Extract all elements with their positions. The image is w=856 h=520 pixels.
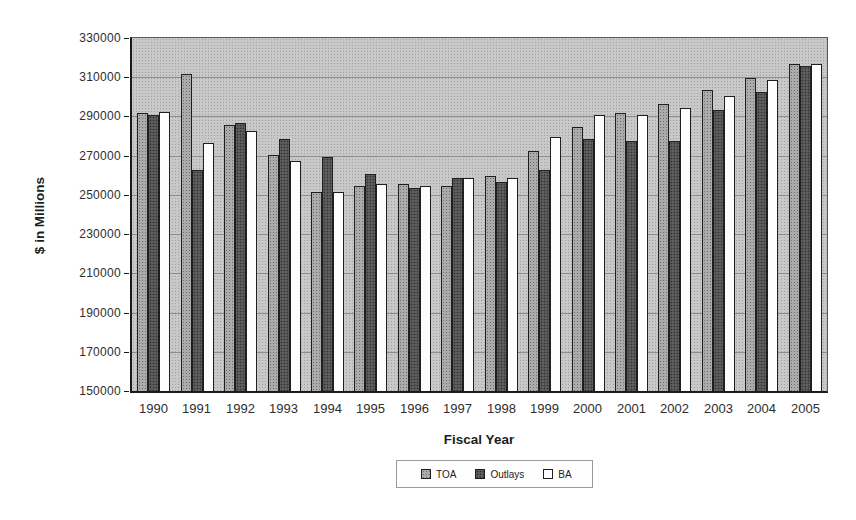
bar-group-1992 <box>219 123 262 391</box>
x-tick-label: 1992 <box>219 401 262 416</box>
bar-group-1993 <box>262 139 305 391</box>
x-tick-label: 2005 <box>784 401 827 416</box>
bar-outlays-1995 <box>365 174 376 391</box>
x-tick-label: 1994 <box>306 401 349 416</box>
y-tick-mark <box>124 391 129 392</box>
bar-ba-2005 <box>811 64 822 391</box>
bar-outlays-1993 <box>279 139 290 391</box>
x-tick-label: 1997 <box>436 401 479 416</box>
bar-group-1990 <box>132 112 175 391</box>
bar-ba-1994 <box>333 192 344 391</box>
bar-outlays-1994 <box>322 157 333 391</box>
bar-toa-1996 <box>398 184 409 391</box>
bar-toa-1994 <box>311 192 322 391</box>
legend-swatch-ba <box>543 469 553 479</box>
y-tick-mark <box>124 234 129 235</box>
bar-outlays-1991 <box>192 170 203 391</box>
bar-outlays-1990 <box>148 115 159 391</box>
bar-ba-1996 <box>420 186 431 391</box>
bar-ba-2002 <box>680 108 691 391</box>
bar-outlays-2001 <box>626 141 637 391</box>
y-tick-mark <box>124 352 129 353</box>
x-tick-label: 2003 <box>697 401 740 416</box>
y-tick-mark <box>124 156 129 157</box>
bar-outlays-2003 <box>713 110 724 391</box>
x-tick-label: 2001 <box>610 401 653 416</box>
bar-ba-2001 <box>637 115 648 391</box>
y-tick-mark <box>124 313 129 314</box>
bar-group-1995 <box>349 174 392 391</box>
y-tick-mark <box>124 77 129 78</box>
bar-outlays-1997 <box>452 178 463 391</box>
bar-outlays-2004 <box>756 92 767 391</box>
bar-group-1999 <box>523 137 566 391</box>
y-tick-label: 270000 <box>0 149 121 163</box>
y-tick-label: 330000 <box>0 31 121 45</box>
bar-group-2002 <box>653 104 696 391</box>
bar-group-1991 <box>175 74 218 391</box>
bar-toa-1998 <box>485 176 496 391</box>
bar-ba-1990 <box>159 112 170 391</box>
bar-toa-1995 <box>354 186 365 391</box>
x-tick-label: 1993 <box>262 401 305 416</box>
plot-area <box>130 37 828 393</box>
bar-ba-1992 <box>246 131 257 391</box>
bar-outlays-1992 <box>235 123 246 391</box>
bar-outlays-2005 <box>800 66 811 391</box>
bar-outlays-1996 <box>409 188 420 391</box>
bar-ba-1991 <box>203 143 214 391</box>
bar-group-1994 <box>306 157 349 391</box>
legend-label-toa: TOA <box>436 469 456 480</box>
x-tick-label: 1996 <box>393 401 436 416</box>
legend-label-outlays: Outlays <box>490 469 524 480</box>
bar-group-1997 <box>436 178 479 391</box>
bar-toa-1993 <box>268 155 279 391</box>
bar-outlays-1999 <box>539 170 550 391</box>
y-tick-mark <box>124 195 129 196</box>
bar-group-1998 <box>480 176 523 391</box>
bar-ba-2000 <box>594 115 605 391</box>
legend-swatch-toa <box>421 469 431 479</box>
bar-ba-1999 <box>550 137 561 391</box>
x-tick-label: 1995 <box>349 401 392 416</box>
legend-item-toa: TOA <box>421 469 456 480</box>
bar-toa-1997 <box>441 186 452 391</box>
y-tick-mark <box>124 38 129 39</box>
bar-toa-2001 <box>615 113 626 391</box>
legend-item-ba: BA <box>543 469 571 480</box>
y-tick-label: 250000 <box>0 188 121 202</box>
gridline <box>132 77 827 78</box>
bar-ba-1998 <box>507 178 518 391</box>
legend-item-outlays: Outlays <box>475 469 524 480</box>
y-axis-title: $ in Millions <box>22 37 58 393</box>
y-tick-label: 190000 <box>0 306 121 320</box>
x-tick-label: 1998 <box>480 401 523 416</box>
bar-group-2003 <box>697 90 740 391</box>
bar-group-2005 <box>784 64 827 391</box>
x-axis-title: Fiscal Year <box>130 432 828 447</box>
x-tick-label: 1990 <box>132 401 175 416</box>
x-tick-label: 1999 <box>523 401 566 416</box>
bar-toa-2003 <box>702 90 713 391</box>
y-tick-mark <box>124 273 129 274</box>
bar-outlays-1998 <box>496 182 507 391</box>
legend: TOAOutlaysBA <box>396 460 593 488</box>
bar-toa-1991 <box>181 74 192 391</box>
bar-toa-1992 <box>224 125 235 391</box>
y-tick-label: 230000 <box>0 227 121 241</box>
y-tick-mark <box>124 116 129 117</box>
bar-ba-1995 <box>376 184 387 391</box>
bar-outlays-2002 <box>669 141 680 391</box>
bar-toa-1999 <box>528 151 539 391</box>
bar-toa-2004 <box>745 78 756 391</box>
legend-swatch-outlays <box>475 469 485 479</box>
bar-group-2000 <box>566 115 609 391</box>
bar-toa-1990 <box>137 113 148 391</box>
y-tick-label: 210000 <box>0 266 121 280</box>
y-tick-label: 170000 <box>0 345 121 359</box>
bar-ba-2004 <box>767 80 778 391</box>
bar-toa-2000 <box>572 127 583 391</box>
bar-group-2001 <box>610 113 653 391</box>
x-tick-label: 2002 <box>653 401 696 416</box>
x-tick-label: 2004 <box>740 401 783 416</box>
